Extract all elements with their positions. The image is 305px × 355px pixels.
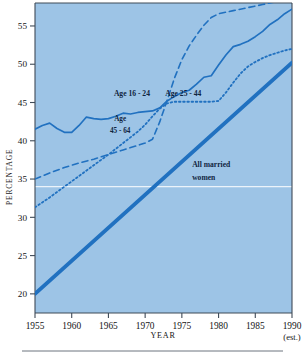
y-tick-label: 55 [18,21,28,31]
labor-force-participation-line-chart: 2025303540455055 19551960196519701975198… [0,0,305,355]
y-tick-label: 25 [18,251,28,261]
chart-figure: 2025303540455055 19551960196519701975198… [0,0,305,355]
y-tick-label: 30 [18,213,28,223]
y-tick-label: 40 [18,136,28,146]
x-tick-label: 1985 [246,321,265,331]
y-tick-label: 35 [18,174,28,184]
x-tick-label: 1970 [136,321,155,331]
y-tick-label: 45 [18,98,28,108]
y-axis-title: PERCENTAGE [5,149,14,205]
x-tick-label: 1975 [172,321,191,331]
x-tick-group: 19551960196519701975198019851990 [26,313,302,331]
x-tick-label: 1955 [26,321,45,331]
plot-background [35,3,292,313]
x-tick-label: 1980 [209,321,228,331]
y-tick-label: 20 [18,289,28,299]
x-axis-title: YEAR [150,331,175,340]
x-tick-label: 1960 [62,321,81,331]
series-label: Age 25 - 44 [165,89,201,98]
estimate-note: (est.) [283,332,301,342]
series-label: Age [114,115,126,123]
y-tick-group: 2025303540455055 [18,21,35,299]
series-label: Age 16 - 24 [114,89,150,98]
x-tick-label: 1965 [99,321,118,331]
x-tick-label: 1990 [283,321,302,331]
series-label: All married [192,160,231,169]
series-label: women [192,173,216,182]
series-label: 45 - 64 [110,127,131,135]
y-tick-label: 50 [18,59,28,69]
